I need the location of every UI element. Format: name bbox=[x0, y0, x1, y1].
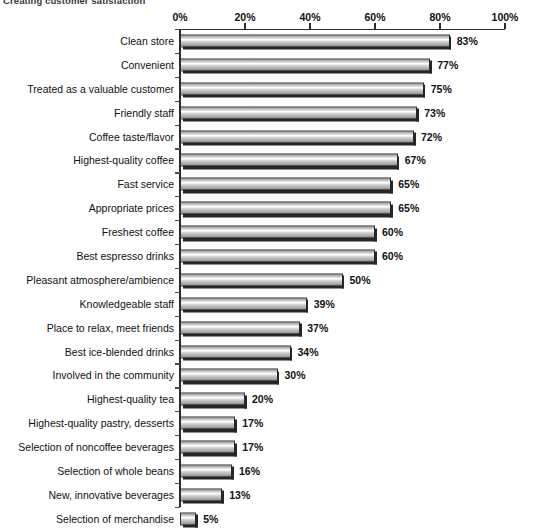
x-axis-tick-label: 0% bbox=[172, 11, 187, 23]
y-axis-tick bbox=[175, 292, 180, 293]
bar-row: Freshest coffee60% bbox=[0, 220, 540, 244]
bar-value-label: 73% bbox=[424, 107, 445, 119]
bar-fill bbox=[180, 369, 278, 382]
bar bbox=[180, 58, 430, 71]
bar-fill bbox=[180, 202, 391, 215]
bar-fill bbox=[180, 297, 307, 310]
bar bbox=[180, 34, 450, 47]
category-label: Selection of whole beans bbox=[57, 465, 174, 477]
bar-value-label: 39% bbox=[314, 298, 335, 310]
category-label: Knowledgeable staff bbox=[80, 298, 174, 310]
bar-row: Place to relax, meet friends37% bbox=[0, 316, 540, 340]
x-axis-tick-label: 80% bbox=[429, 11, 450, 23]
bar-rows: Clean store83%Convenient77%Treated as a … bbox=[0, 29, 540, 531]
bar-fill bbox=[180, 273, 343, 286]
y-axis-tick bbox=[175, 507, 180, 508]
bar bbox=[180, 345, 291, 358]
bar-value-label: 20% bbox=[252, 393, 273, 405]
category-label: Friendly staff bbox=[114, 107, 174, 119]
category-label: Convenient bbox=[121, 59, 174, 71]
bar-row: Clean store83% bbox=[0, 29, 540, 53]
bar bbox=[180, 488, 222, 501]
bar bbox=[180, 273, 343, 286]
bar-fill bbox=[180, 34, 450, 47]
bar-row: Coffee taste/flavor72% bbox=[0, 125, 540, 149]
bar bbox=[180, 106, 417, 119]
bar-fill bbox=[180, 441, 235, 454]
bar-row: Highest-quality pastry, desserts17% bbox=[0, 411, 540, 435]
bar-row: Knowledgeable staff39% bbox=[0, 292, 540, 316]
category-label: Appropriate prices bbox=[89, 202, 174, 214]
x-axis-tick bbox=[439, 23, 441, 29]
bar-value-label: 65% bbox=[398, 178, 419, 190]
y-axis-tick bbox=[175, 101, 180, 102]
bar bbox=[180, 512, 196, 525]
y-axis-tick bbox=[175, 29, 180, 30]
bar-value-label: 65% bbox=[398, 202, 419, 214]
y-axis-tick bbox=[175, 459, 180, 460]
bar-value-label: 30% bbox=[285, 369, 306, 381]
bar-value-label: 77% bbox=[437, 59, 458, 71]
category-label: Best espresso drinks bbox=[77, 250, 174, 262]
x-axis-tick-label: 60% bbox=[364, 11, 385, 23]
category-label: New, innovative beverages bbox=[49, 489, 175, 501]
category-label: Selection of merchandise bbox=[56, 513, 174, 525]
x-axis-tick bbox=[309, 23, 311, 29]
bar bbox=[180, 249, 375, 262]
bar-value-label: 50% bbox=[350, 274, 371, 286]
bar-row: New, innovative beverages13% bbox=[0, 483, 540, 507]
bar-row: Convenient77% bbox=[0, 53, 540, 77]
y-axis-tick bbox=[175, 387, 180, 388]
bar-value-label: 72% bbox=[421, 131, 442, 143]
y-axis-tick bbox=[175, 220, 180, 221]
bar-value-label: 17% bbox=[242, 417, 263, 429]
bar bbox=[180, 417, 235, 430]
y-axis-tick bbox=[175, 77, 180, 78]
bar bbox=[180, 464, 232, 477]
category-label: Highest-quality tea bbox=[87, 393, 174, 405]
bar bbox=[180, 441, 235, 454]
bar-fill bbox=[180, 345, 291, 358]
y-axis-tick bbox=[175, 316, 180, 317]
bar bbox=[180, 297, 307, 310]
bar-row: Best ice-blended drinks34% bbox=[0, 340, 540, 364]
bar-row: Treated as a valuable customer75% bbox=[0, 77, 540, 101]
y-axis-tick bbox=[175, 244, 180, 245]
bar-value-label: 13% bbox=[229, 489, 250, 501]
bar-row: Fast service65% bbox=[0, 172, 540, 196]
bar-row: Pleasant atmosphere/ambience50% bbox=[0, 268, 540, 292]
bar bbox=[180, 154, 398, 167]
bar-row: Highest-quality tea20% bbox=[0, 387, 540, 411]
category-label: Pleasant atmosphere/ambience bbox=[26, 274, 174, 286]
bar-fill bbox=[180, 106, 417, 119]
bar bbox=[180, 82, 424, 95]
bar-row: Appropriate prices65% bbox=[0, 196, 540, 220]
category-label: Place to relax, meet friends bbox=[47, 322, 174, 334]
bar-value-label: 60% bbox=[382, 226, 403, 238]
x-axis-tick bbox=[504, 23, 506, 29]
bar-fill bbox=[180, 512, 196, 525]
category-label: Highest-quality coffee bbox=[73, 154, 174, 166]
y-axis-tick bbox=[175, 53, 180, 54]
bar-fill bbox=[180, 82, 424, 95]
x-axis-tick-label: 100% bbox=[492, 11, 519, 23]
y-axis-tick bbox=[175, 340, 180, 341]
bar-fill bbox=[180, 488, 222, 501]
bar-row: Selection of merchandise5% bbox=[0, 507, 540, 531]
y-axis-tick bbox=[175, 363, 180, 364]
category-label: Selection of noncoffee beverages bbox=[18, 441, 174, 453]
bar-fill bbox=[180, 178, 391, 191]
category-label: Treated as a valuable customer bbox=[27, 83, 174, 95]
y-axis-tick bbox=[175, 125, 180, 126]
bar bbox=[180, 369, 278, 382]
y-axis-tick bbox=[175, 411, 180, 412]
bar-fill bbox=[180, 249, 375, 262]
bar-value-label: 16% bbox=[239, 465, 260, 477]
bar bbox=[180, 130, 414, 143]
bar-row: Best espresso drinks60% bbox=[0, 244, 540, 268]
bar-value-label: 67% bbox=[405, 154, 426, 166]
category-label: Freshest coffee bbox=[102, 226, 174, 238]
bar-row: Involved in the community30% bbox=[0, 363, 540, 387]
bar-value-label: 60% bbox=[382, 250, 403, 262]
